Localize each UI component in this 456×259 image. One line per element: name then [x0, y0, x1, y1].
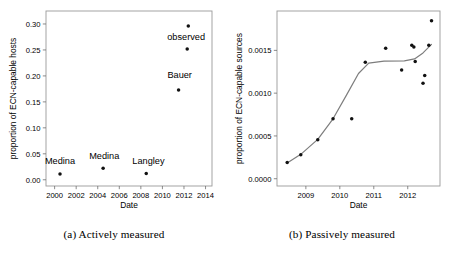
panel-passively-measured: 20092010201120120.00000.00050.00100.0015… [228, 0, 456, 259]
x-axis-label: Date [120, 200, 138, 210]
panel-actively-measured: 200020022004200620082010201220140.000.05… [0, 0, 228, 259]
figure-container: 200020022004200620082010201220140.000.05… [0, 0, 456, 259]
y-tick-label: 0.10 [26, 124, 41, 133]
data-point [58, 172, 62, 176]
point-annotation: Langley [132, 156, 165, 166]
x-tick-label: 2006 [111, 191, 128, 200]
data-point [101, 167, 105, 171]
data-point [412, 45, 416, 49]
trend-line [287, 44, 431, 163]
data-point [144, 172, 148, 176]
panel-a-caption: (a) Actively measured [0, 228, 228, 240]
x-tick-label: 2008 [132, 191, 149, 200]
data-point [384, 46, 388, 50]
y-tick-label: 0.0000 [248, 175, 271, 184]
y-tick-label: 0.0015 [248, 46, 271, 55]
data-point [177, 88, 181, 92]
x-tick-label: 2000 [46, 191, 63, 200]
x-tick-label: 2009 [297, 191, 314, 200]
x-tick-label: 2002 [68, 191, 85, 200]
y-axis-label: proportion of ECN-capable sources [234, 33, 244, 164]
data-point [427, 43, 431, 47]
point-annotation: observed [167, 32, 205, 42]
x-tick-label: 2004 [89, 191, 106, 200]
y-tick-label: 0.25 [26, 46, 41, 55]
y-tick-label: 0.0010 [248, 89, 271, 98]
y-tick-label: 0.15 [26, 98, 41, 107]
data-point [364, 61, 368, 65]
data-point [187, 24, 191, 28]
panel-b-caption: (b) Passively measured [228, 228, 456, 240]
y-tick-label: 0.0005 [248, 132, 271, 141]
x-tick-label: 2010 [154, 191, 171, 200]
point-annotation: Bauer [167, 70, 192, 80]
data-point [400, 68, 404, 72]
x-tick-label: 2014 [197, 191, 214, 200]
data-point [185, 47, 189, 51]
data-point [421, 82, 425, 86]
data-point [285, 161, 289, 165]
x-tick-label: 2012 [399, 191, 416, 200]
x-tick-label: 2011 [366, 191, 382, 200]
y-tick-label: 0.20 [26, 72, 41, 81]
y-axis-label: proportion of ECN-capable hosts [8, 38, 18, 160]
data-point [430, 19, 434, 23]
point-annotation: Medina [89, 151, 120, 161]
x-axis-label: Date [350, 200, 368, 210]
data-point [299, 153, 303, 157]
scatter-plot-passively-measured: 20092010201120120.00000.00050.00100.0015… [228, 0, 456, 228]
scatter-plot-actively-measured: 200020022004200620082010201220140.000.05… [0, 0, 228, 228]
data-point [413, 60, 417, 64]
data-point [423, 74, 427, 78]
x-tick-label: 2010 [331, 191, 348, 200]
y-tick-label: 0.05 [26, 150, 41, 159]
data-point [350, 117, 354, 121]
y-tick-label: 0.00 [26, 176, 41, 185]
plot-frame [277, 11, 440, 186]
data-point [316, 138, 320, 142]
data-point [331, 117, 335, 121]
point-annotation: Medina [45, 156, 76, 166]
y-tick-label: 0.30 [26, 20, 41, 29]
x-tick-label: 2012 [176, 191, 193, 200]
